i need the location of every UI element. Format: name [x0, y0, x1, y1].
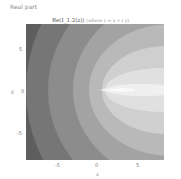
x-axis-label: x	[96, 171, 99, 177]
chart-title: Re(I_1.2(z)) (where z = x + i y)	[0, 17, 181, 23]
contour-plot-area	[26, 24, 164, 160]
x-tick-neg5: -5	[55, 162, 60, 168]
y-axis-label: y	[11, 88, 14, 94]
y-tick-neg5: -5	[17, 130, 22, 136]
y-tick-5: 5	[19, 46, 22, 52]
section-label: Real part	[10, 3, 37, 10]
x-tick-5: 5	[136, 162, 139, 168]
y-tick-0: 0	[21, 88, 24, 94]
chart-title-main: Re(I_1.2(z))	[52, 17, 85, 23]
contour-fill	[26, 24, 164, 160]
chart-subtitle: (where z = x + i y)	[86, 18, 129, 23]
x-tick-0: 0	[95, 162, 98, 168]
